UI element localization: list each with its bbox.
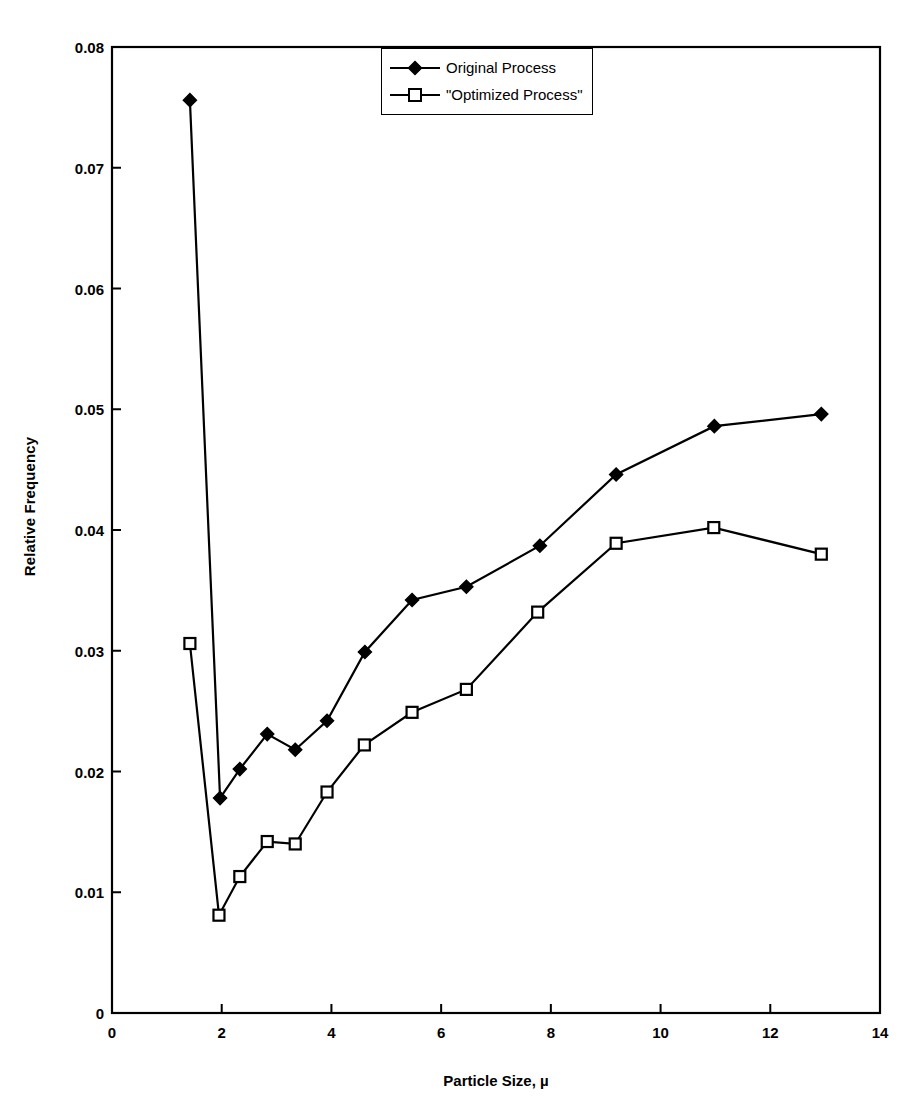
data-point-diamond <box>815 408 828 421</box>
plot-frame <box>112 47 880 1013</box>
chart-legend: Original Process "Optimized Process" <box>381 48 593 115</box>
data-point-square <box>290 838 301 849</box>
data-point-square <box>184 638 195 649</box>
chart-figure: Relative Frequency 00.010.020.030.040.05… <box>0 0 917 1108</box>
data-point-diamond <box>214 792 227 805</box>
data-point-square <box>234 871 245 882</box>
legend-marker-filled-diamond-icon <box>389 59 441 77</box>
series-line <box>190 528 821 916</box>
data-point-square <box>461 684 472 695</box>
legend-label: "Optimized Process" <box>446 86 583 103</box>
legend-item-original-process[interactable]: Original Process <box>389 54 583 81</box>
data-point-diamond <box>708 420 721 433</box>
legend-marker-open-square-icon <box>389 86 441 104</box>
series-line <box>190 100 821 798</box>
data-point-square <box>213 910 224 921</box>
data-point-square <box>407 707 418 718</box>
data-point-square <box>611 538 622 549</box>
data-point-square <box>708 522 719 533</box>
plot-area <box>0 0 917 1108</box>
data-point-diamond <box>460 580 473 593</box>
data-point-square <box>322 787 333 798</box>
data-point-square <box>359 739 370 750</box>
x-axis-title: Particle Size, µ <box>112 1072 880 1089</box>
legend-item-optimized-process[interactable]: "Optimized Process" <box>389 81 583 108</box>
data-point-square <box>532 607 543 618</box>
data-point-square <box>816 549 827 560</box>
data-point-square <box>262 836 273 847</box>
data-point-diamond <box>183 94 196 107</box>
legend-label: Original Process <box>446 59 556 76</box>
